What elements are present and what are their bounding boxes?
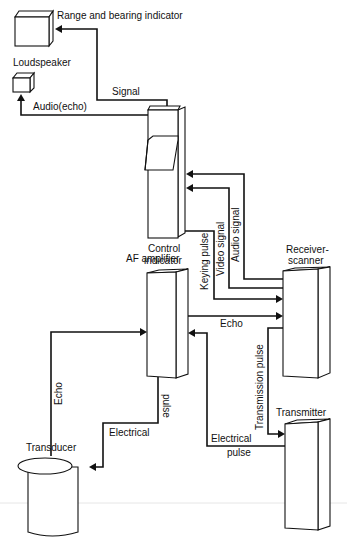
echo-transducer-af-label: Echo: [53, 382, 64, 405]
range-bearing-indicator-block: [15, 11, 53, 46]
arrow-head: [276, 295, 283, 303]
keying-pulse-label: Keying pulse: [199, 232, 210, 290]
audio-echo-label: Audio(echo): [33, 101, 87, 112]
electrical-pulse-tx-label-1: Electrical: [211, 433, 252, 444]
transmitter-label: Transmitter: [276, 407, 327, 418]
electrical-pulse-af-wire: [96, 377, 158, 467]
arrow-head: [186, 170, 193, 178]
arrow-head: [140, 328, 147, 336]
arrow-head: [276, 312, 283, 320]
sonar-block-diagram: Range and bearing indicator Loudspeaker …: [0, 0, 347, 548]
receiver-scanner-label-2: scanner: [288, 255, 324, 266]
af-amplifier-block: [147, 269, 188, 378]
arrow-head: [278, 430, 285, 438]
loudspeaker-label: Loudspeaker: [13, 57, 71, 68]
electrical-pulse-tx-wire: [195, 333, 285, 446]
control-indicator-block: [145, 106, 185, 238]
electrical-pulse-tx-label-2: pulse: [227, 447, 251, 458]
range-bearing-indicator-label: Range and bearing indicator: [57, 10, 183, 21]
electrical-pulse-af-label-2: pulse: [161, 394, 172, 418]
video-signal-label: Video signal: [215, 222, 226, 276]
transducer-block: [18, 458, 78, 536]
af-amplifier-label: AF amplifier: [126, 253, 180, 264]
signal-label: Signal: [112, 86, 140, 97]
transmission-pulse-label: Transmission pulse: [254, 344, 265, 430]
arrow-head: [89, 463, 96, 471]
audio-signal-label: Audio signal: [230, 208, 241, 262]
transmitter-block: [285, 419, 330, 530]
receiver-scanner-label-1: Receiver-: [286, 244, 329, 255]
echo-af-receiver-label: Echo: [220, 318, 243, 329]
loudspeaker-block: [13, 73, 34, 92]
receiver-scanner-block: [283, 267, 330, 378]
arrow-head: [186, 184, 193, 192]
transmission-pulse-wire: [268, 328, 283, 434]
arrow-head: [17, 94, 25, 101]
electrical-pulse-af-label-1: Electrical: [109, 427, 150, 438]
arrow-head: [188, 329, 195, 337]
arrow-head: [55, 25, 62, 33]
